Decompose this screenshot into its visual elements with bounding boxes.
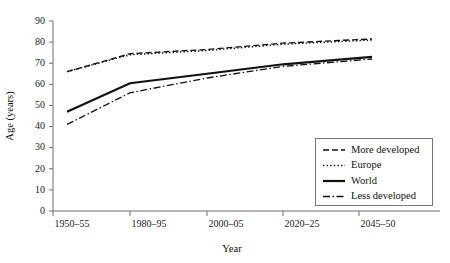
- chart-legend: More developedEuropeWorldLess developed: [316, 139, 433, 206]
- legend-label-more-developed: More developed: [351, 144, 420, 155]
- y-tick-label: 20: [35, 163, 45, 174]
- y-tick-label: 10: [35, 184, 45, 195]
- y-tick-label: 60: [35, 78, 45, 89]
- y-tick-label: 90: [35, 15, 45, 26]
- y-axis-title: Age (years): [4, 91, 16, 141]
- x-axis-ticks: 1950–551980–952000–052020–252045–50: [53, 211, 396, 229]
- legend-label-world: World: [351, 175, 378, 186]
- chart-figure: 0102030405060708090 1950–551980–952000–0…: [0, 0, 450, 263]
- line-chart-canvas: 0102030405060708090 1950–551980–952000–0…: [0, 0, 450, 263]
- x-tick-label: 2045–50: [361, 218, 396, 229]
- y-tick-label: 70: [35, 57, 45, 68]
- series-line-more-developed: [67, 39, 372, 72]
- y-tick-label: 50: [35, 99, 45, 110]
- data-series-group: [67, 39, 372, 125]
- x-tick-label: 2020–25: [285, 218, 320, 229]
- x-axis-title: Year: [222, 243, 242, 254]
- y-tick-label: 40: [35, 120, 45, 131]
- y-tick-label: 0: [40, 205, 45, 216]
- legend-label-less-developed: Less developed: [351, 190, 417, 201]
- y-tick-label: 80: [35, 36, 45, 47]
- legend-label-europe: Europe: [351, 159, 382, 170]
- series-line-world: [67, 57, 372, 112]
- x-tick-label: 1980–95: [132, 218, 167, 229]
- y-tick-label: 30: [35, 141, 45, 152]
- x-tick-label: 1950–55: [55, 218, 90, 229]
- series-line-europe: [67, 40, 372, 72]
- y-axis-ticks: 0102030405060708090: [35, 15, 53, 216]
- x-tick-label: 2000–05: [209, 218, 244, 229]
